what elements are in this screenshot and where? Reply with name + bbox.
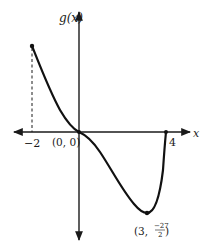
point-minimum [145,211,149,215]
svg-text:2: 2 [158,231,162,239]
svg-text:): ) [165,225,169,237]
point-start [30,44,34,48]
graph-canvas: g(x) x −2 4 (0, 0) (3, −27 2 ) [0,0,211,251]
tick-label-4: 4 [169,136,176,149]
x-axis-label: x [193,127,200,140]
svg-text:(3,: (3, [134,225,148,237]
point-origin [77,130,81,134]
minimum-label: (3, −27 2 ) [134,222,169,239]
tick-label-neg2: −2 [24,137,40,150]
point-end [164,130,168,134]
origin-label: (0, 0) [52,136,80,148]
curve-g [32,46,166,213]
y-axis-label: g(x) [59,11,83,25]
